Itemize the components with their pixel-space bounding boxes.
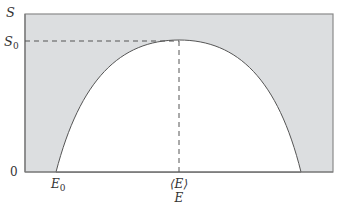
x-axis-label: E [174,191,184,205]
mean-e-label: ⟨E⟩ [170,177,188,191]
s0-label: S0 [4,34,19,51]
entropy-diagram: S S0 0 E0 ⟨E⟩ E [0,0,339,208]
y-axis-label: S [6,5,15,20]
e0-label: E0 [50,177,66,193]
origin-label: 0 [10,165,18,179]
